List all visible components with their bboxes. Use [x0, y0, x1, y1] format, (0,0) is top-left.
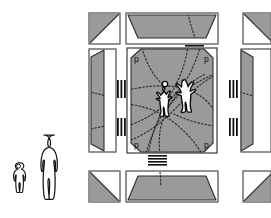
p-label-top-left: p	[134, 54, 139, 64]
adult-figure-outline	[41, 135, 57, 199]
edge-panel-right	[240, 49, 271, 152]
hatch-left-upper	[117, 80, 126, 98]
child-figure	[14, 163, 26, 193]
courtyard-surface	[131, 49, 213, 152]
hatch-right-upper	[229, 80, 238, 98]
edge-panel-bottom	[126, 171, 218, 202]
human-scale-reference	[14, 135, 58, 199]
hatch-right-lower	[229, 118, 238, 136]
figure-root: p p p p	[0, 0, 271, 218]
edge-panel-left	[88, 49, 116, 152]
plan-grid: p p p p	[88, 13, 271, 202]
central-courtyard: p p p p	[127, 46, 217, 155]
p-label-bottom-left: p	[134, 140, 139, 150]
adult-figure	[41, 135, 57, 199]
corner-panel-top-left	[89, 13, 120, 44]
hatch-bottom	[148, 155, 167, 166]
corner-panel-bottom-left	[89, 171, 120, 202]
child-figure-head	[17, 164, 21, 168]
adult-figure-courtyard-head	[162, 81, 167, 86]
p-label-bottom-right: p	[204, 140, 209, 150]
corner-panel-bottom-right	[243, 171, 271, 202]
plan-diagram: p p p p	[0, 0, 271, 218]
hatch-left-lower	[117, 118, 126, 136]
p-label-top-right: p	[204, 54, 209, 64]
corner-panel-top-right	[243, 13, 271, 44]
edge-panel-top	[126, 13, 218, 44]
